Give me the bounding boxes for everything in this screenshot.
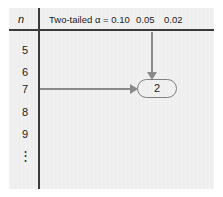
critical-value: 2 (137, 82, 177, 95)
column-lookup-arrow-line (151, 32, 153, 74)
row-header-label: n (18, 13, 24, 25)
row-label-8: 8 (18, 106, 32, 119)
row-label-divider-rule (38, 8, 40, 189)
row-label-ellipsis: ⋮ (18, 149, 32, 162)
critical-value-lookup-figure: n Two-tailed α = 0.10 0.05 0.02 5 6 7 8 … (0, 0, 223, 197)
row-lookup-arrow-line (40, 88, 132, 90)
row-label-5: 5 (18, 44, 32, 57)
row-label-6: 6 (18, 66, 32, 79)
column-header-alpha-005: 0.05 (136, 14, 155, 26)
column-header-alpha-002: 0.02 (164, 14, 183, 26)
column-header-alpha-010: Two-tailed α = 0.10 (49, 14, 130, 26)
row-label-7: 7 (18, 83, 32, 96)
row-label-9: 9 (18, 128, 32, 141)
